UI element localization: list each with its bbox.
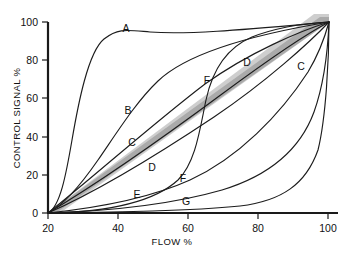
curve-label-g: G bbox=[182, 195, 190, 207]
y-axis-label: CONTROL SIGNAL % bbox=[11, 67, 22, 168]
curve-label-f-upper: F bbox=[204, 74, 210, 86]
x-tick-label-80: 80 bbox=[252, 222, 264, 234]
y-tick-label-100: 100 bbox=[20, 16, 38, 28]
x-axis-label: FLOW % bbox=[152, 236, 193, 247]
shaded-band-group bbox=[48, 14, 329, 213]
curve-label-f-lower: F bbox=[180, 172, 186, 184]
curve-label-e: E bbox=[133, 188, 140, 200]
y-tick-label-0: 0 bbox=[32, 207, 38, 219]
curve-label-d-left: D bbox=[148, 161, 156, 173]
y-tick-label-40: 40 bbox=[26, 131, 38, 143]
x-tick-label-60: 60 bbox=[182, 222, 194, 234]
curve-label-b: B bbox=[124, 104, 131, 116]
x-tick-label-20: 20 bbox=[42, 222, 54, 234]
x-tick-label-40: 40 bbox=[112, 222, 124, 234]
curve-label-c-left: C bbox=[128, 136, 136, 148]
valve-characteristic-chart: 0 20 40 60 80 100 20 40 60 80 100 FLOW %… bbox=[0, 0, 351, 267]
curve-label-c-right: C bbox=[297, 60, 305, 72]
shaded-band-inner bbox=[48, 17, 329, 213]
y-tick-label-80: 80 bbox=[26, 54, 38, 66]
y-tick-label-20: 20 bbox=[26, 169, 38, 181]
curve-label-d-right: D bbox=[243, 56, 251, 68]
chart-canvas: 0 20 40 60 80 100 20 40 60 80 100 FLOW %… bbox=[0, 0, 351, 267]
curve-label-a: A bbox=[122, 22, 129, 34]
y-tick-label-60: 60 bbox=[26, 92, 38, 104]
x-tick-label-100: 100 bbox=[319, 222, 337, 234]
